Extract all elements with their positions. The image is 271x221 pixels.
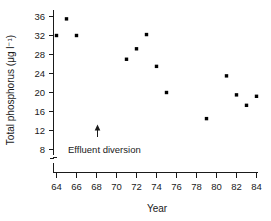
x-tick-label: 82 bbox=[231, 181, 242, 192]
x-axis-title: Year bbox=[147, 203, 168, 214]
y-tick-label: 36 bbox=[34, 11, 45, 22]
chart-canvas: 36 32 28 24 20 16 12 8 64 66 68 bbox=[0, 0, 271, 221]
data-point bbox=[205, 117, 208, 120]
y-axis-tick-labels: 36 32 28 24 20 16 12 8 bbox=[34, 11, 45, 155]
y-tick-label: 28 bbox=[34, 49, 45, 60]
data-points-layer bbox=[55, 17, 258, 120]
data-point bbox=[145, 33, 148, 36]
y-axis-break-mark-upper bbox=[51, 157, 57, 159]
y-axis-title: Total phosphorus (μg l⁻¹) bbox=[5, 35, 16, 145]
x-tick-label: 78 bbox=[191, 181, 202, 192]
y-tick-label: 32 bbox=[34, 30, 45, 41]
scatter-plot-figure: 36 32 28 24 20 16 12 8 64 66 68 bbox=[0, 0, 271, 221]
data-point bbox=[225, 74, 228, 77]
data-point bbox=[65, 17, 68, 20]
y-tick-label: 12 bbox=[34, 125, 45, 136]
data-point bbox=[235, 93, 238, 96]
x-tick-label: 74 bbox=[151, 181, 162, 192]
data-point bbox=[255, 95, 258, 98]
y-tick-label: 24 bbox=[34, 68, 45, 79]
effluent-diversion-arrow-icon bbox=[95, 125, 101, 138]
data-point bbox=[245, 104, 248, 107]
data-point bbox=[55, 34, 58, 37]
data-point bbox=[155, 65, 158, 68]
data-point bbox=[165, 91, 168, 94]
effluent-diversion-label: Effluent diversion bbox=[68, 144, 141, 155]
y-axis-ticks bbox=[49, 17, 54, 150]
x-tick-label: 72 bbox=[131, 181, 142, 192]
x-axis-ticks bbox=[57, 173, 257, 178]
x-tick-label: 66 bbox=[71, 181, 82, 192]
x-axis-tick-labels: 64 66 68 70 72 74 76 78 80 82 84 bbox=[51, 181, 262, 192]
y-tick-label: 16 bbox=[34, 106, 45, 117]
y-tick-label: 20 bbox=[34, 87, 45, 98]
x-tick-label: 68 bbox=[91, 181, 102, 192]
data-point bbox=[135, 47, 138, 50]
x-tick-label: 80 bbox=[211, 181, 222, 192]
data-point bbox=[75, 34, 78, 37]
x-tick-label: 76 bbox=[171, 181, 182, 192]
x-tick-label: 84 bbox=[251, 181, 262, 192]
y-tick-label: 8 bbox=[40, 144, 45, 155]
x-tick-label: 64 bbox=[51, 181, 62, 192]
data-point bbox=[125, 58, 128, 61]
x-tick-label: 70 bbox=[111, 181, 122, 192]
